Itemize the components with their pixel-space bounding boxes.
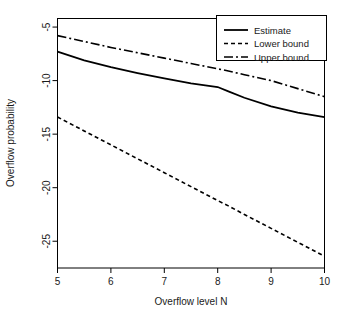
x-tick-label: 9 [268,276,274,287]
y-tick-label: -20 [41,180,52,195]
x-axis-label: Overflow level N [155,296,228,307]
x-tick-label: 8 [215,276,221,287]
x-tick-label: 10 [319,276,331,287]
x-tick-label: 6 [108,276,114,287]
legend-label: Lower bound [254,38,309,49]
y-tick-label: -10 [41,73,52,88]
y-tick-label: -25 [41,234,52,249]
y-tick-label: -5 [41,22,52,31]
legend-label: Upper bound [254,52,309,63]
x-tick-label: 5 [55,276,61,287]
legend-label: Estimate [254,25,291,36]
x-tick-label: 7 [162,276,168,287]
y-tick-label: -15 [41,126,52,141]
chart-figure: 5678910 -5-10-15-20-25 Overflow level N … [0,0,346,321]
chart-legend: EstimateLower boundUpper bound [217,16,327,63]
y-axis-label: Overflow probability [5,99,16,187]
line-chart: 5678910 -5-10-15-20-25 Overflow level N … [0,0,346,321]
